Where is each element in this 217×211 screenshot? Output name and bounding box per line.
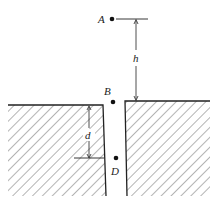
point-a-dot <box>110 17 115 22</box>
label-h: h <box>133 52 139 64</box>
shaft-diagram: A h B d D <box>0 0 217 211</box>
point-b-dot <box>111 100 116 105</box>
label-d-point: D <box>110 165 119 177</box>
label-d: d <box>85 129 91 141</box>
ground-right <box>125 101 210 196</box>
label-b: B <box>104 85 111 97</box>
label-a: A <box>97 13 105 25</box>
point-d-dot <box>114 156 119 161</box>
ground-left <box>8 105 106 196</box>
